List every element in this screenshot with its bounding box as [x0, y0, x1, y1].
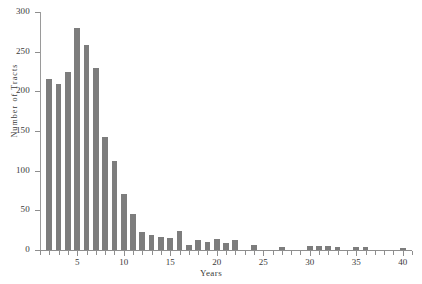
y-axis-tick-label: 100	[16, 165, 30, 175]
histogram-bar	[214, 239, 220, 250]
histogram-bar	[195, 240, 201, 250]
x-axis-minor-tick	[245, 251, 246, 255]
x-axis-minor-tick	[282, 251, 283, 255]
histogram-bar	[130, 214, 136, 250]
x-axis-tick-label: 5	[67, 257, 87, 267]
x-axis-minor-tick	[180, 251, 181, 255]
x-axis-tick-label: 35	[346, 257, 366, 267]
x-axis-minor-tick	[198, 251, 199, 255]
histogram-bar	[46, 79, 52, 250]
histogram-bar	[167, 238, 173, 250]
x-axis-tick	[217, 251, 218, 256]
y-axis-tick	[35, 91, 40, 92]
x-axis-minor-tick	[40, 251, 41, 255]
x-axis-minor-tick	[59, 251, 60, 255]
x-axis-tick-label: 40	[393, 257, 413, 267]
x-axis-tick	[356, 251, 357, 256]
x-axis-minor-tick	[87, 251, 88, 255]
x-axis-tick	[310, 251, 311, 256]
x-axis-minor-tick	[68, 251, 69, 255]
y-axis-tick	[35, 171, 40, 172]
x-axis-tick	[263, 251, 264, 256]
y-axis-tick-label: 300	[16, 6, 30, 16]
histogram-bar	[56, 84, 62, 250]
x-axis-minor-tick	[235, 251, 236, 255]
y-axis-tick	[35, 210, 40, 211]
x-axis-minor-tick	[152, 251, 153, 255]
x-axis-minor-tick	[412, 251, 413, 255]
x-axis-tick-label: 20	[207, 257, 227, 267]
x-axis-minor-tick	[319, 251, 320, 255]
x-axis-minor-tick	[189, 251, 190, 255]
y-axis-tick-label: 50	[21, 204, 30, 214]
x-axis-tick-label: 30	[300, 257, 320, 267]
bars-layer	[40, 12, 412, 250]
x-axis-minor-tick	[384, 251, 385, 255]
y-axis-tick	[35, 131, 40, 132]
x-axis-minor-tick	[49, 251, 50, 255]
histogram-bar	[149, 235, 155, 250]
histogram-chart: 050100150200250300 510152025303540 Numbe…	[0, 0, 422, 284]
x-axis-minor-tick	[142, 251, 143, 255]
x-axis-minor-tick	[96, 251, 97, 255]
histogram-bar	[139, 232, 145, 250]
x-axis-minor-tick	[133, 251, 134, 255]
x-axis-minor-tick	[291, 251, 292, 255]
y-axis-tick	[35, 12, 40, 13]
y-axis-tick	[35, 52, 40, 53]
x-axis-minor-tick	[347, 251, 348, 255]
x-axis-minor-tick	[338, 251, 339, 255]
x-axis-minor-tick	[328, 251, 329, 255]
histogram-bar	[65, 72, 71, 251]
y-axis-tick-label: 0	[25, 244, 30, 254]
x-axis-minor-tick	[393, 251, 394, 255]
x-axis-title: Years	[0, 268, 422, 278]
histogram-bar	[232, 240, 238, 250]
x-axis-tick-label: 25	[253, 257, 273, 267]
x-axis-tick-label: 15	[160, 257, 180, 267]
x-axis-tick	[77, 251, 78, 256]
histogram-bar	[205, 242, 211, 250]
histogram-bar	[121, 194, 127, 250]
x-axis-minor-tick	[375, 251, 376, 255]
x-axis-tick	[124, 251, 125, 256]
histogram-bar	[74, 28, 80, 250]
x-axis-tick	[170, 251, 171, 256]
histogram-bar	[177, 231, 183, 250]
plot-area	[40, 12, 412, 250]
x-axis-minor-tick	[114, 251, 115, 255]
x-axis-minor-tick	[254, 251, 255, 255]
y-axis-title: Number of Tracts	[10, 51, 19, 151]
histogram-bar	[93, 68, 99, 250]
x-axis-minor-tick	[105, 251, 106, 255]
x-axis-minor-tick	[161, 251, 162, 255]
x-axis-tick	[403, 251, 404, 256]
x-axis-minor-tick	[226, 251, 227, 255]
x-axis-minor-tick	[300, 251, 301, 255]
histogram-bar	[158, 237, 164, 250]
x-axis-minor-tick	[207, 251, 208, 255]
x-axis-tick-label: 10	[114, 257, 134, 267]
x-axis-minor-tick	[273, 251, 274, 255]
y-axis-line	[40, 12, 41, 250]
histogram-bar	[102, 137, 108, 250]
x-axis-minor-tick	[366, 251, 367, 255]
histogram-bar	[112, 161, 118, 250]
histogram-bar	[84, 45, 90, 250]
histogram-bar	[223, 243, 229, 250]
